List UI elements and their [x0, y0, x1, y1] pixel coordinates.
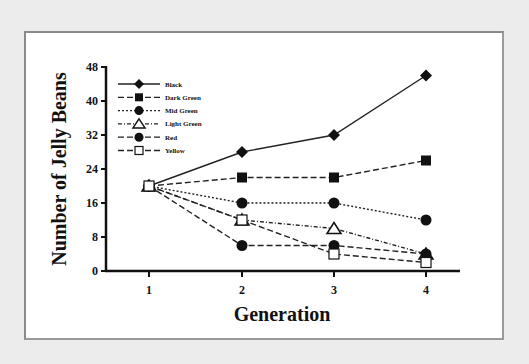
x-axis: 1234: [105, 271, 460, 297]
open-square-marker-icon: [237, 215, 247, 225]
open-square-marker-icon: [329, 249, 339, 259]
legend-item: Mid Green: [118, 106, 198, 115]
legend-label: Yellow: [165, 147, 186, 155]
diamond-marker-icon: [236, 146, 248, 158]
legend-item: Red: [118, 133, 177, 142]
series-dark-green: [144, 156, 431, 192]
y-tick-label: 0: [92, 264, 98, 278]
legend-label: Black: [165, 81, 182, 89]
square-marker-icon: [329, 173, 339, 183]
circle-marker-icon: [237, 198, 248, 209]
legend-label: Dark Green: [165, 94, 201, 102]
y-tick-label: 48: [86, 60, 98, 74]
y-axis-title: Number of Jelly Beans: [48, 72, 71, 266]
series-red: [144, 181, 432, 260]
x-tick-label: 4: [423, 283, 429, 297]
x-axis-title: Generation: [234, 303, 331, 325]
line-chart: 081624324048 1234 Number of Jelly Beans …: [0, 0, 529, 364]
series-black: [143, 70, 432, 193]
circle-marker-icon: [421, 215, 432, 226]
legend-label: Light Green: [165, 120, 202, 128]
diamond-marker-icon: [328, 129, 340, 141]
y-tick-label: 32: [86, 128, 98, 142]
series-light-green: [142, 180, 433, 259]
legend-item: Black: [118, 79, 182, 89]
circle-marker-icon: [135, 106, 144, 115]
y-tick-label: 16: [86, 196, 98, 210]
y-tick-label: 24: [86, 162, 98, 176]
x-tick-label: 1: [146, 283, 152, 297]
open-square-marker-icon: [421, 258, 431, 268]
x-tick-label: 2: [239, 283, 245, 297]
square-marker-icon: [135, 93, 143, 101]
legend-item: Dark Green: [118, 93, 201, 102]
diamond-marker-icon: [420, 70, 432, 82]
legend-item: Light Green: [118, 119, 202, 128]
open-triangle-marker-icon: [133, 119, 145, 128]
y-tick-label: 40: [86, 94, 98, 108]
legend: BlackDark GreenMid GreenLight GreenRedYe…: [118, 79, 202, 155]
square-marker-icon: [237, 173, 247, 183]
legend-label: Mid Green: [165, 107, 198, 115]
series-mid-green: [144, 181, 432, 226]
open-square-marker-icon: [144, 181, 154, 191]
legend-label: Red: [165, 134, 177, 142]
circle-marker-icon: [135, 133, 144, 142]
y-tick-label: 8: [92, 230, 98, 244]
x-tick-label: 3: [331, 283, 337, 297]
diamond-marker-icon: [134, 79, 144, 89]
circle-marker-icon: [329, 198, 340, 209]
legend-item: Yellow: [118, 147, 186, 156]
y-axis: 081624324048: [86, 60, 106, 278]
open-square-marker-icon: [135, 147, 143, 155]
circle-marker-icon: [237, 240, 248, 251]
square-marker-icon: [421, 156, 431, 166]
